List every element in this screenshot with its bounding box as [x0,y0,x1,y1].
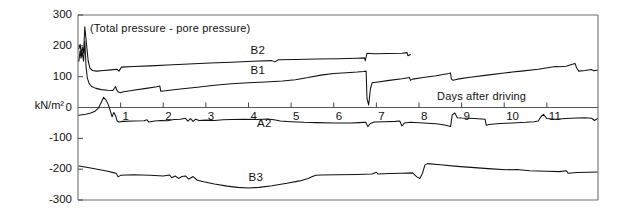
series-label-b3: B3 [248,171,263,183]
x-tick-label-day-3: 3 [208,110,214,122]
x-axis-label: Days after driving [437,90,526,102]
series-curve-b3 [79,164,597,188]
series-label-a2: A2 [257,117,272,129]
x-tick-label-day-9: 9 [464,110,470,122]
series-label-b1: B1 [251,64,266,76]
chart-caption: (Total pressure - pore pressure) [90,22,250,34]
x-tick-label-day-5: 5 [293,110,299,122]
y-tick-label-100: 100 [22,70,72,82]
x-tick-label-day-11: 11 [549,110,561,122]
y-tick-label-neg200: -200 [22,162,72,174]
y-tick-label-neg100: -100 [22,131,72,143]
x-tick-label-day-10: 10 [506,110,519,122]
series-label-b2: B2 [251,44,266,56]
y-tick-label-300: 300 [22,8,72,20]
x-tick-label-day-4: 4 [250,110,256,122]
x-tick-label-day-6: 6 [336,110,342,122]
y-tick-label-0: 0 [22,101,72,113]
pressure-time-chart-figure: (Total pressure - pore pressure) kN/m² D… [0,0,625,216]
x-tick-label-day-1: 1 [123,110,129,122]
y-tick-label-200: 200 [22,39,72,51]
x-tick-label-day-8: 8 [421,110,427,122]
y-tick-label-neg300: -300 [22,193,72,205]
x-tick-label-day-2: 2 [165,110,171,122]
x-tick-label-day-7: 7 [378,110,384,122]
